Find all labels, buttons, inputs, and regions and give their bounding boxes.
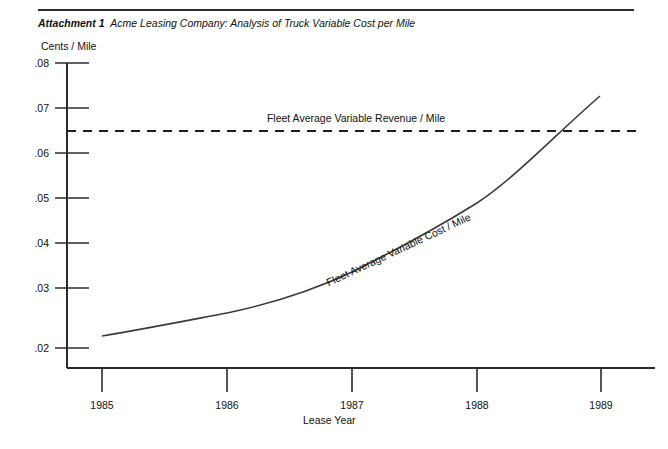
x-axis-title: Lease Year xyxy=(303,414,356,426)
y-tick-label: .02 xyxy=(34,342,49,354)
y-tick-label: .04 xyxy=(34,237,49,249)
cost-series-label: Fleet Average Variable Cost / Mile xyxy=(324,211,472,289)
y-tick-label: .05 xyxy=(34,192,49,204)
x-tick-label: 1988 xyxy=(465,399,489,411)
x-axis-tick-labels: 1985 1986 1987 1988 1989 xyxy=(90,399,613,411)
cost-curve xyxy=(102,96,600,336)
y-tick-label: .06 xyxy=(34,147,49,159)
x-axis-ticks xyxy=(102,368,601,392)
x-tick-label: 1989 xyxy=(589,399,613,411)
y-axis-ticks xyxy=(55,63,89,348)
chart-figure: Attachment 1 Acme Leasing Company: Analy… xyxy=(0,0,668,449)
y-tick-label: .08 xyxy=(34,57,49,69)
x-tick-label: 1987 xyxy=(340,399,364,411)
x-tick-label: 1986 xyxy=(215,399,239,411)
revenue-series-label: Fleet Average Variable Revenue / Mile xyxy=(267,112,445,124)
y-tick-label: .07 xyxy=(34,102,49,114)
y-tick-label: .03 xyxy=(34,282,49,294)
y-axis-tick-labels: .08 .07 .06 .05 .04 .03 .02 xyxy=(34,57,49,354)
x-tick-label: 1985 xyxy=(90,399,114,411)
chart-plot-area: .08 .07 .06 .05 .04 .03 .02 1985 1986 19… xyxy=(0,0,668,449)
